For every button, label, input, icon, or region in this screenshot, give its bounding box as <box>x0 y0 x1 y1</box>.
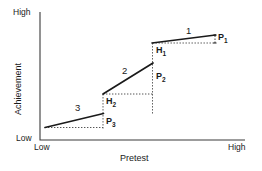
y-axis-title: Achievement <box>14 63 23 115</box>
point-label-p2: P2 <box>156 72 166 83</box>
segment-line-1 <box>152 35 216 43</box>
regression-discontinuity-figure: High Low Low High Achievement Pretest 3 … <box>0 0 262 171</box>
segment-line-3 <box>45 114 104 128</box>
point-label-h2: H2 <box>106 97 116 108</box>
point-label-h2-sub: 2 <box>113 101 117 108</box>
point-label-p2-sub: 2 <box>162 76 166 83</box>
y-axis-low-label: Low <box>16 134 32 143</box>
point-label-h1: H1 <box>156 46 166 57</box>
segment-label-2: 2 <box>122 66 127 76</box>
point-label-p3-sub: 3 <box>112 121 116 128</box>
point-label-h1-sub: 1 <box>163 50 167 57</box>
point-label-p1-sub: 1 <box>224 37 228 44</box>
segment-label-3: 3 <box>75 103 80 113</box>
y-axis-high-label: High <box>13 8 30 17</box>
x-axis-high-label: High <box>228 143 245 152</box>
segment-line-2 <box>103 63 153 94</box>
x-axis-low-label: Low <box>34 143 50 152</box>
point-label-p3: P3 <box>106 117 116 128</box>
segment-label-1: 1 <box>186 26 191 36</box>
point-label-p1: P1 <box>218 33 228 44</box>
x-axis-title: Pretest <box>120 154 149 163</box>
